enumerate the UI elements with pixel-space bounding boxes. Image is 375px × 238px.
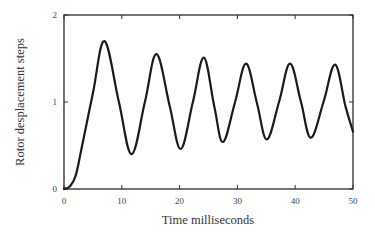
plot-frame [64,15,353,189]
y-axis-label: Rotor desplacement steps [13,38,27,166]
axis-ticks [64,15,353,189]
x-tick-label: 30 [233,196,243,206]
x-tick-label: 50 [349,196,359,206]
x-tick-label: 40 [291,196,301,206]
x-tick-label: 20 [175,196,185,206]
x-axis-label: Time milliseconds [162,213,254,227]
y-tick-label: 1 [53,97,58,107]
y-tick-label: 0 [53,184,58,194]
data-line [64,41,353,189]
y-tick-label: 2 [53,10,58,20]
x-tick-label: 0 [62,196,67,206]
chart: 01020304050012 Time milliseconds Rotor d… [0,0,375,238]
x-tick-label: 10 [117,196,127,206]
tick-labels: 01020304050012 [53,10,359,206]
